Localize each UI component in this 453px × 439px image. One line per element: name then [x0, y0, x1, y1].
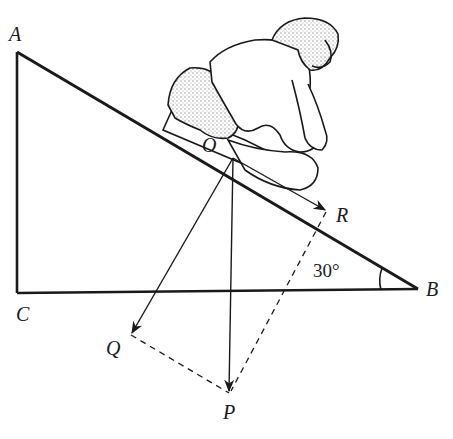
vector-OP — [229, 158, 233, 391]
angle-label: 30° — [313, 261, 340, 280]
label-R: R — [336, 205, 348, 225]
side-CB — [17, 289, 418, 293]
dashed-QP — [131, 335, 229, 393]
label-Q: Q — [106, 338, 120, 358]
label-O: O — [202, 135, 216, 155]
label-B: B — [426, 279, 438, 299]
diagram-canvas — [0, 0, 453, 439]
label-P: P — [223, 402, 235, 422]
label-A: A — [9, 24, 21, 44]
angle-arc-B — [380, 268, 382, 290]
label-C: C — [16, 304, 29, 324]
person-figure — [163, 18, 338, 190]
dashed-RP — [231, 212, 326, 391]
inclined-plane-diagram: A C B O R Q P 30° — [0, 0, 453, 439]
vector-OQ — [132, 158, 233, 333]
force-vectors — [131, 158, 326, 393]
